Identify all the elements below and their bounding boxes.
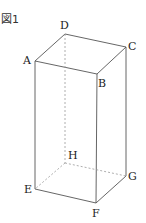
edge-CD — [65, 34, 126, 47]
vertex-label-D: D — [60, 20, 69, 31]
vertex-label-B: B — [98, 78, 106, 89]
edge-AB — [35, 61, 97, 74]
edge-BF — [96, 74, 97, 203]
edge-BC — [97, 47, 126, 74]
vertex-label-A: A — [23, 55, 31, 66]
vertex-label-C: C — [128, 41, 136, 52]
edge-EF — [35, 189, 96, 203]
vertex-label-G: G — [128, 171, 137, 182]
hidden-edge-HE — [35, 163, 65, 189]
hidden-edge-HG — [65, 163, 126, 176]
vertex-label-H: H — [68, 150, 78, 161]
rectangular-prism-diagram — [0, 0, 146, 223]
vertex-label-F: F — [92, 208, 100, 219]
edge-FG — [96, 176, 126, 203]
edge-DA — [35, 34, 65, 61]
vertex-label-E: E — [24, 184, 32, 195]
